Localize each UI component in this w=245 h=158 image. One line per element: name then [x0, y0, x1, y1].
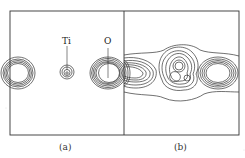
ti-label: Ti [62, 36, 71, 46]
panel-a-label: (a) [59, 142, 71, 152]
panel-b-label: (b) [174, 142, 187, 152]
o-atom-left-contours [1, 57, 35, 89]
o-atom-b-right-contours [198, 57, 238, 89]
left-lobe-contours [124, 58, 156, 89]
scan-noise [6, 108, 245, 151]
contour-maps [0, 0, 245, 158]
panel-a-contours [1, 46, 130, 89]
panel-b-contours [124, 45, 239, 101]
contour-figure: Ti O (a) (b) [0, 0, 245, 158]
o-label: O [104, 36, 111, 46]
central-cluster-contours [159, 47, 198, 90]
